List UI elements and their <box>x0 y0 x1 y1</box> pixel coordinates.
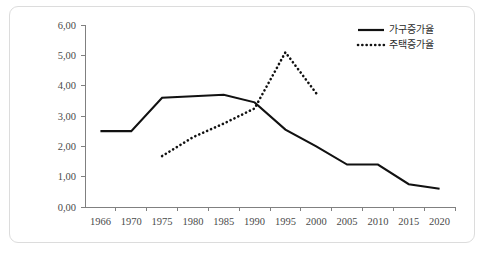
y-axis-tick-label: 3,00 <box>58 111 76 122</box>
x-axis-tick-label: 2000 <box>306 216 327 227</box>
y-axis-tick-label: 4,00 <box>58 80 76 91</box>
x-axis-tick-label: 2005 <box>337 216 358 227</box>
x-axis-tick-label: 2015 <box>398 216 419 227</box>
x-axis-tick-label: 1995 <box>275 216 296 227</box>
legend-label: 주택증가율 <box>389 39 434 50</box>
y-axis-tick-label: 1,00 <box>58 171 76 182</box>
y-axis-tick-label: 2,00 <box>58 141 76 152</box>
x-axis-tick-label: 1966 <box>90 216 111 227</box>
series-line-2 <box>162 52 316 156</box>
x-axis-tick-label: 2020 <box>429 216 450 227</box>
x-axis-tick-label: 2010 <box>367 216 388 227</box>
y-axis-tick-label: 0,00 <box>58 202 76 213</box>
x-axis-tick-label: 1980 <box>182 216 203 227</box>
x-axis-tick-label: 1975 <box>152 216 173 227</box>
line-chart: 0,001,002,003,004,005,006,00196619701975… <box>0 0 489 255</box>
chart-legend: 가구증가율주택증가율 <box>358 24 434 50</box>
x-axis-tick-label: 1985 <box>213 216 234 227</box>
x-axis-tick-label: 1970 <box>121 216 142 227</box>
y-axis-tick-label: 6,00 <box>58 20 76 31</box>
legend-label: 가구증가율 <box>389 24 434 35</box>
chart-plot-area: 0,001,002,003,004,005,006,00196619701975… <box>0 0 489 255</box>
y-axis-tick-label: 5,00 <box>58 50 76 61</box>
series-line-1 <box>100 95 439 189</box>
x-axis-tick-label: 1990 <box>244 216 265 227</box>
